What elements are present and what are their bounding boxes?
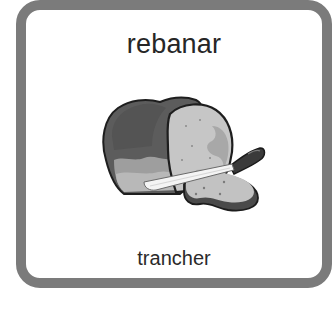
sliced-bread-with-knife-icon bbox=[100, 96, 266, 214]
card-title: rebanar bbox=[26, 28, 322, 60]
card-caption: trancher bbox=[26, 246, 322, 270]
pictogram-card[interactable]: rebanar bbox=[16, 0, 332, 288]
